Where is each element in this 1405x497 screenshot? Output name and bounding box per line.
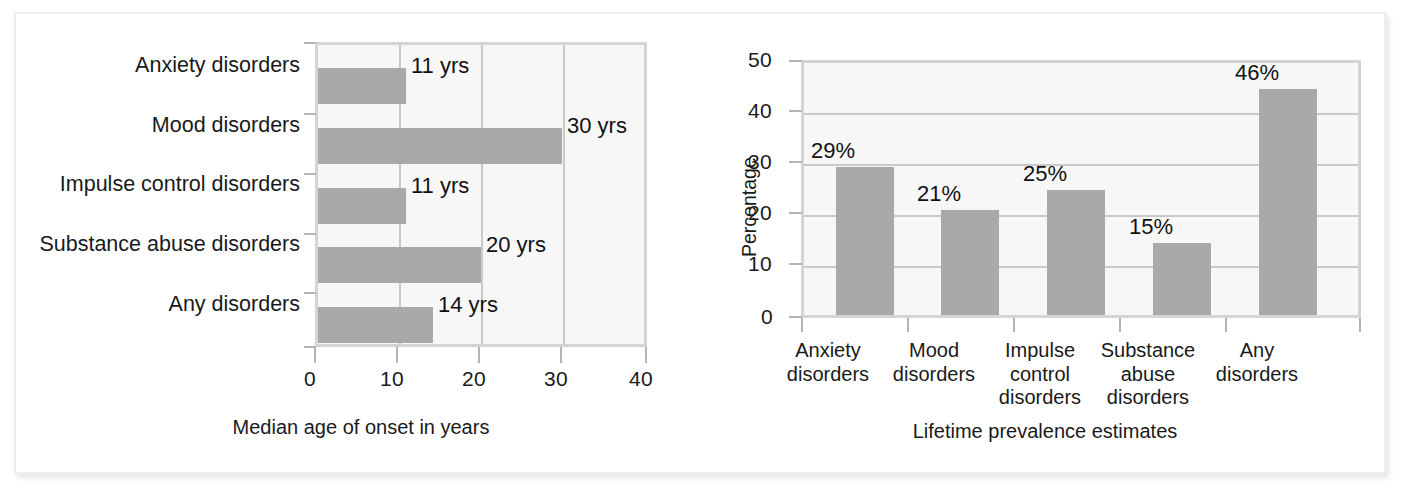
y-axis-title-percentage: Percentage xyxy=(738,157,761,257)
tick-x-10 xyxy=(396,347,398,363)
bar-any-disorders xyxy=(1259,89,1317,315)
tick-left-cat-4 xyxy=(304,292,316,294)
value-label-any-disorders: 14 yrs xyxy=(438,292,498,318)
ytick-label-0: 0 xyxy=(761,305,773,329)
tick-x-cat-1 xyxy=(907,318,909,332)
tick-x-cat-2 xyxy=(1013,318,1015,332)
tick-left-cat-2 xyxy=(304,173,316,175)
tick-x-cat-0 xyxy=(801,318,803,332)
xtick-label-impulse-control-disorders: Impulse control disorders xyxy=(992,339,1088,410)
right-plot-area xyxy=(801,60,1361,318)
xtick-label-0: 0 xyxy=(304,367,316,391)
value-label-substance-abuse-disorders: 15% xyxy=(1129,214,1173,240)
ytick-label-50: 50 xyxy=(748,48,772,72)
category-label-mood-disorders: Mood disorders xyxy=(152,113,300,138)
bar-anxiety-disorders xyxy=(836,167,894,315)
tick-y-50 xyxy=(789,60,802,62)
xtick-label-mood-disorders: Mood disorders xyxy=(886,339,982,386)
value-label-anxiety-disorders: 11 yrs xyxy=(411,53,469,79)
bar-mood-disorders xyxy=(941,210,999,315)
figure-container: Anxiety disorders Mood disorders Impulse… xyxy=(14,12,1386,474)
tick-left-cat-3 xyxy=(304,233,316,235)
value-label-substance-abuse-disorders: 20 yrs xyxy=(486,232,546,258)
value-label-impulse-control-disorders: 11 yrs xyxy=(411,173,469,199)
ytick-label-40: 40 xyxy=(748,99,772,123)
category-label-any-disorders: Any disorders xyxy=(169,292,300,317)
value-label-mood-disorders: 21% xyxy=(917,181,961,207)
tick-left-cat-top xyxy=(304,42,316,44)
gridline-x-30 xyxy=(563,45,565,344)
value-label-mood-disorders: 30 yrs xyxy=(567,113,627,139)
tick-x-40 xyxy=(645,347,647,363)
tick-y-20 xyxy=(789,212,802,214)
bar-substance-abuse-disorders xyxy=(1153,243,1211,315)
bar-substance-abuse-disorders xyxy=(318,247,481,283)
xtick-label-substance-abuse-disorders: Substance abuse disorders xyxy=(1098,339,1198,410)
bar-any-disorders xyxy=(318,307,433,343)
xtick-label-any-disorders: Any disorders xyxy=(1204,339,1310,386)
tick-x-cat-5 xyxy=(1359,318,1361,332)
tick-y-30 xyxy=(789,161,802,163)
chart-median-age-of-onset: Anxiety disorders Mood disorders Impulse… xyxy=(16,14,706,472)
category-label-anxiety-disorders: Anxiety disorders xyxy=(135,53,300,78)
value-label-any-disorders: 46% xyxy=(1235,60,1279,86)
bar-impulse-control-disorders xyxy=(1047,190,1105,315)
tick-y-40 xyxy=(789,110,802,112)
left-chart-caption: Median age of onset in years xyxy=(16,416,706,439)
tick-x-cat-4 xyxy=(1225,318,1227,332)
chart-lifetime-prevalence: 50 40 30 20 10 0 Percentage 29% 21% 25% … xyxy=(706,14,1384,472)
xtick-label-anxiety-disorders: Anxiety disorders xyxy=(780,339,876,386)
xtick-label-30: 30 xyxy=(544,367,568,391)
xtick-label-10: 10 xyxy=(380,367,404,391)
tick-x-0 xyxy=(314,347,316,363)
tick-x-30 xyxy=(560,347,562,363)
xtick-label-20: 20 xyxy=(462,367,486,391)
bar-anxiety-disorders xyxy=(318,68,406,104)
right-chart-caption: Lifetime prevalence estimates xyxy=(706,420,1384,443)
xtick-label-40: 40 xyxy=(629,367,653,391)
tick-x-cat-3 xyxy=(1119,318,1121,332)
tick-left-cat-1 xyxy=(304,113,316,115)
category-label-impulse-control-disorders: Impulse control disorders xyxy=(60,172,300,197)
tick-y-10 xyxy=(789,263,802,265)
bar-mood-disorders xyxy=(318,128,562,164)
value-label-anxiety-disorders: 29% xyxy=(811,138,855,164)
category-label-substance-abuse-disorders: Substance abuse disorders xyxy=(39,232,300,257)
value-label-impulse-control-disorders: 25% xyxy=(1023,161,1067,187)
tick-x-20 xyxy=(478,347,480,363)
bar-impulse-control-disorders xyxy=(318,188,406,224)
